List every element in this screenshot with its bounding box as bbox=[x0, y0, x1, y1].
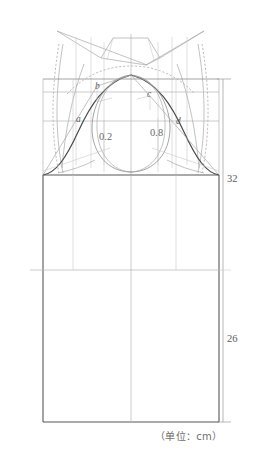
measure-label-left-offset: 0.2 bbox=[99, 132, 112, 143]
upper-construction-lines bbox=[57, 31, 204, 175]
unit-caption: （单位：cm） bbox=[155, 432, 222, 442]
pattern-figure-page: .faint { stroke:#c9c9c9; stroke-width:0.… bbox=[0, 0, 259, 467]
dimension-label-upper-height: 32 bbox=[227, 174, 238, 185]
body-block-rectangle bbox=[30, 175, 219, 422]
point-label-a: a bbox=[76, 115, 81, 125]
point-label-d: d bbox=[176, 117, 181, 127]
point-label-c: c bbox=[147, 90, 151, 100]
point-label-b: b bbox=[95, 82, 100, 92]
pattern-drawing: .faint { stroke:#c9c9c9; stroke-width:0.… bbox=[0, 0, 259, 467]
dimension-label-lower-height: 26 bbox=[227, 334, 238, 345]
measure-label-right-offset: 0.8 bbox=[150, 128, 163, 139]
